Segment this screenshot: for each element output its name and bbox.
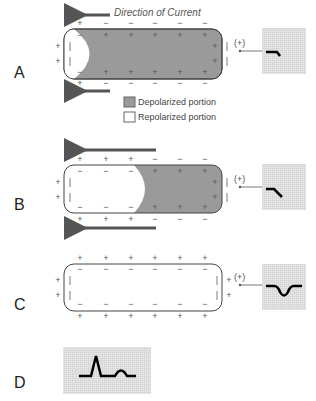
svg-text:+: +	[212, 41, 217, 51]
svg-text:+: +	[177, 311, 182, 321]
svg-text:+: +	[212, 56, 217, 66]
svg-text:−: −	[152, 154, 157, 164]
svg-text:−: −	[177, 264, 182, 274]
electrode-b-label: (+)	[234, 174, 245, 184]
svg-text:−: −	[103, 18, 108, 28]
svg-text:+: +	[152, 202, 157, 212]
panel-c	[64, 264, 306, 311]
svg-text:−: −	[103, 264, 108, 274]
svg-text:−: −	[77, 30, 82, 40]
svg-text:+: +	[212, 192, 217, 202]
svg-text:−: −	[177, 78, 182, 88]
svg-text:−: −	[128, 264, 133, 274]
svg-text:+: +	[128, 67, 133, 77]
svg-text:−: −	[103, 78, 108, 88]
svg-text:−: −	[103, 299, 108, 309]
svg-text:+: +	[212, 177, 217, 187]
svg-text:+: +	[77, 253, 82, 263]
legend-repolarized: Repolarized portion	[138, 112, 216, 122]
svg-text:−: −	[202, 264, 207, 274]
svg-text:+: +	[55, 177, 60, 187]
svg-text:+: +	[226, 290, 231, 300]
svg-text:−: −	[152, 78, 157, 88]
svg-text:|: |	[69, 275, 71, 285]
svg-text:−: −	[177, 299, 182, 309]
svg-text:+: +	[152, 67, 157, 77]
panel-d-label: D	[14, 374, 26, 392]
svg-text:+: +	[226, 275, 231, 285]
svg-text:+: +	[55, 56, 60, 66]
svg-text:|: |	[216, 275, 218, 285]
svg-text:|: |	[226, 56, 228, 66]
svg-text:+: +	[128, 154, 133, 164]
svg-text:−: −	[202, 154, 207, 164]
svg-text:−: −	[152, 264, 157, 274]
svg-text:+: +	[177, 202, 182, 212]
svg-text:−: −	[128, 78, 133, 88]
panel-b	[64, 150, 306, 228]
svg-text:−: −	[77, 67, 82, 77]
svg-text:+: +	[77, 311, 82, 321]
svg-text:+: +	[177, 67, 182, 77]
svg-text:−: −	[77, 264, 82, 274]
panel-a-label: A	[14, 64, 25, 82]
svg-text:+: +	[177, 30, 182, 40]
svg-text:−: −	[177, 154, 182, 164]
svg-text:+: +	[55, 41, 60, 51]
svg-text:+: +	[55, 275, 60, 285]
svg-text:+: +	[103, 154, 108, 164]
svg-text:|: |	[69, 41, 71, 51]
panel-d	[63, 347, 151, 394]
svg-text:−: −	[152, 214, 157, 224]
svg-text:+: +	[103, 30, 108, 40]
svg-text:−: −	[128, 166, 133, 176]
svg-text:+: +	[202, 30, 207, 40]
svg-text:|: |	[226, 177, 228, 187]
legend-depolarized: Depolarized portion	[138, 97, 216, 107]
diagram-canvas: +−−−−− −+++++ −+++++ +−−−−− ++|| ++|| ++…	[0, 0, 316, 401]
svg-text:+: +	[128, 253, 133, 263]
svg-text:−: −	[128, 299, 133, 309]
svg-text:+: +	[202, 253, 207, 263]
svg-text:+: +	[77, 214, 82, 224]
svg-text:+: +	[202, 202, 207, 212]
svg-text:+: +	[128, 311, 133, 321]
electrode-c-label: (+)	[234, 272, 245, 282]
svg-text:+: +	[177, 166, 182, 176]
svg-text:+: +	[152, 30, 157, 40]
svg-text:−: −	[128, 18, 133, 28]
svg-text:+: +	[77, 154, 82, 164]
svg-text:−: −	[128, 202, 133, 212]
svg-text:−: −	[202, 18, 207, 28]
svg-text:+: +	[152, 311, 157, 321]
svg-text:−: −	[77, 166, 82, 176]
svg-text:+: +	[202, 311, 207, 321]
svg-text:|: |	[226, 192, 228, 202]
svg-text:−: −	[103, 202, 108, 212]
panel-b-label: B	[14, 196, 25, 214]
svg-text:−: −	[177, 18, 182, 28]
svg-text:+: +	[103, 253, 108, 263]
svg-text:+: +	[103, 311, 108, 321]
svg-text:+: +	[77, 18, 82, 28]
svg-text:|: |	[69, 290, 71, 300]
svg-text:−: −	[202, 299, 207, 309]
panel-c-label: C	[14, 296, 26, 314]
svg-text:+: +	[177, 253, 182, 263]
svg-text:−: −	[77, 202, 82, 212]
svg-text:−: −	[103, 166, 108, 176]
svg-text:|: |	[226, 41, 228, 51]
svg-text:|: |	[69, 177, 71, 187]
svg-text:+: +	[77, 78, 82, 88]
svg-text:−: −	[77, 299, 82, 309]
svg-text:+: +	[202, 166, 207, 176]
svg-text:+: +	[152, 166, 157, 176]
svg-text:+: +	[55, 290, 60, 300]
svg-text:|: |	[69, 192, 71, 202]
svg-text:−: −	[202, 78, 207, 88]
svg-text:+: +	[128, 30, 133, 40]
svg-text:−: −	[177, 214, 182, 224]
svg-text:+: +	[103, 67, 108, 77]
svg-text:+: +	[152, 253, 157, 263]
svg-text:−: −	[152, 299, 157, 309]
